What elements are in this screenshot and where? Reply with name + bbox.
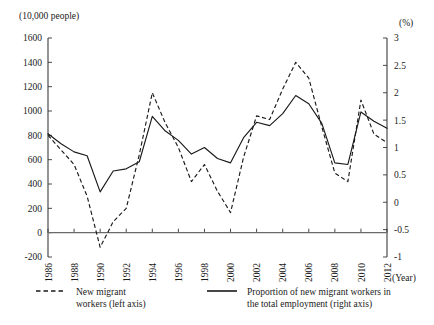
legend-proportion-label-line2: the total employment (right axis) bbox=[247, 299, 372, 310]
legend-proportion-label-line1: Proportion of new migrant workers in bbox=[247, 287, 391, 297]
left-tick-label: 200 bbox=[28, 204, 43, 214]
x-tick-label: 2006 bbox=[304, 263, 314, 282]
series-proportion-total-employment bbox=[48, 95, 387, 191]
left-tick-label: 1600 bbox=[23, 33, 42, 43]
left-tick-label: -200 bbox=[25, 252, 43, 262]
x-tick-label: 2008 bbox=[330, 263, 340, 282]
legend-new-migrant-workers-label-line2: workers (left axis) bbox=[76, 299, 146, 310]
x-tick-label: 2004 bbox=[278, 263, 288, 282]
chart-legend: New migrantworkers (left axis)Proportion… bbox=[36, 287, 391, 310]
series-new-migrant-workers bbox=[48, 62, 387, 247]
right-tick-label: 1 bbox=[394, 143, 399, 153]
left-tick-label: 800 bbox=[28, 131, 43, 141]
left-tick-label: 600 bbox=[28, 155, 43, 165]
legend-new-migrant-workers-label-line1: New migrant bbox=[76, 287, 126, 297]
right-tick-label: 3 bbox=[394, 33, 399, 43]
left-tick-label: 1200 bbox=[23, 82, 42, 92]
right-tick-label: 0 bbox=[394, 198, 399, 208]
x-tick-label: 1996 bbox=[174, 263, 184, 282]
x-tick-label: 2000 bbox=[226, 263, 236, 282]
x-tick-label: 1986 bbox=[44, 263, 54, 282]
left-tick-label: 400 bbox=[28, 179, 43, 189]
x-tick-label: 1994 bbox=[148, 263, 158, 282]
right-tick-label: -1 bbox=[394, 252, 402, 262]
x-tick-label: 2002 bbox=[252, 263, 262, 282]
migrant-workers-line-chart: (10,000 people) (%) (Year) -200020040060… bbox=[0, 0, 434, 325]
x-tick-label: 2010 bbox=[357, 263, 367, 282]
right-tick-label: 2.5 bbox=[394, 61, 406, 71]
right-tick-label: 2 bbox=[394, 88, 399, 98]
x-axis-ticks: 1986198819901992199419961998200020022004… bbox=[44, 229, 393, 282]
right-tick-label: 1.5 bbox=[394, 116, 406, 126]
left-axis-unit-label: (10,000 people) bbox=[19, 11, 79, 22]
left-tick-label: 0 bbox=[37, 228, 42, 238]
left-tick-label: 1000 bbox=[23, 106, 42, 116]
data-series-layer bbox=[48, 62, 387, 247]
x-tick-label: 1990 bbox=[96, 263, 106, 282]
x-axis-label: (Year) bbox=[392, 273, 416, 284]
right-axis-unit-label: (%) bbox=[399, 18, 413, 29]
x-tick-label: 1992 bbox=[122, 263, 132, 282]
x-tick-label: 1998 bbox=[200, 263, 210, 282]
chart-canvas: (10,000 people) (%) (Year) -200020040060… bbox=[0, 0, 434, 325]
left-tick-label: 1400 bbox=[23, 58, 42, 68]
x-tick-label: 1988 bbox=[70, 263, 80, 282]
x-tick-label: 2012 bbox=[383, 263, 393, 282]
right-tick-label: 0.5 bbox=[394, 170, 406, 180]
right-tick-label: -0.5 bbox=[394, 225, 409, 235]
